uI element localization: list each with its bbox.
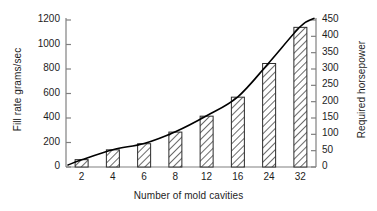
x-axis-tick-label: 24	[254, 171, 284, 182]
bar	[200, 116, 213, 167]
bar	[138, 144, 151, 167]
y-axis-right-tick-label: 450	[322, 13, 356, 24]
y-axis-left-tick-label: 400	[26, 111, 60, 122]
x-axis-tick-label: 8	[160, 171, 190, 182]
y-axis-right-tick-label: 50	[322, 144, 356, 155]
y-axis-left-tick-label: 800	[26, 62, 60, 73]
bar	[263, 63, 276, 167]
horsepower-curve	[68, 18, 314, 165]
y-axis-right-tick-label: 400	[322, 29, 356, 40]
bar	[294, 27, 307, 167]
y-axis-left-tick-label: 600	[26, 87, 60, 98]
x-axis-tick-label: 2	[67, 171, 97, 182]
bar	[231, 97, 244, 167]
y-axis-right-tick-label: 200	[322, 95, 356, 106]
y-axis-right-tick-label: 100	[322, 127, 356, 138]
bars-group	[75, 27, 307, 167]
x-axis-tick-label: 16	[223, 171, 253, 182]
y-axis-right-tick-label: 0	[322, 160, 356, 171]
y-axis-left-tick-label: 0	[26, 160, 60, 171]
x-axis-tick-label: 6	[129, 171, 159, 182]
chart-figure: Fill rate grams/sec Required horsepower …	[0, 0, 377, 211]
y-axis-left-tick-label: 1200	[26, 13, 60, 24]
y-axis-left-tick-label: 200	[26, 136, 60, 147]
bar	[106, 150, 119, 167]
y-axis-right-tick-label: 250	[322, 78, 356, 89]
x-axis-tick-label: 32	[285, 171, 315, 182]
y-axis-left-tick-label: 1000	[26, 38, 60, 49]
axes	[66, 18, 316, 167]
y-axis-right-tick-label: 300	[322, 62, 356, 73]
y-axis-right-tick-label: 150	[322, 111, 356, 122]
y-axis-right-tick-label: 350	[322, 46, 356, 57]
x-axis-tick-label: 12	[192, 171, 222, 182]
line-series	[68, 18, 314, 165]
x-axis-tick-label: 4	[98, 171, 128, 182]
bar	[169, 132, 182, 167]
